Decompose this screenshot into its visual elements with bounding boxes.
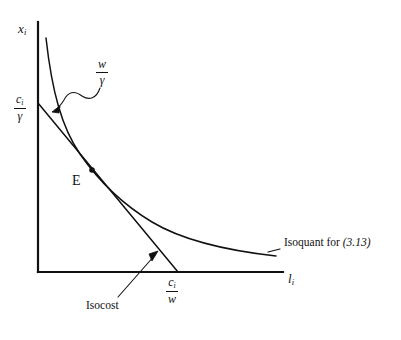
- isocost-line: [38, 103, 178, 272]
- isoquant-label: Isoquant for (3.13): [284, 237, 371, 249]
- vertical-intercept-numerator: ci: [14, 93, 26, 109]
- isocost-label: Isocost: [86, 300, 119, 312]
- isocost-leader-line: [118, 255, 155, 297]
- vertical-intercept-fraction: ci γ: [14, 93, 26, 123]
- vertical-intercept-label: ci γ: [14, 93, 26, 123]
- x-axis-label: li: [288, 272, 294, 287]
- y-axis-label-text: x: [18, 21, 24, 36]
- isoquant-label-text: Isoquant for: [284, 236, 340, 248]
- equilibrium-point-label: E: [72, 174, 81, 188]
- horizontal-intercept-fraction: ci w: [166, 276, 178, 306]
- slope-annotation-numerator: w: [96, 58, 108, 73]
- y-axis-label: xi: [18, 22, 26, 37]
- x-axis-label-subscript: i: [292, 277, 294, 287]
- slope-annotation-denominator: γ: [96, 73, 108, 87]
- slope-leader-line: [55, 88, 100, 110]
- isoquant-curve: [46, 38, 276, 256]
- diagram-svg: [0, 0, 401, 340]
- horizontal-intercept-label: ci w: [166, 276, 178, 306]
- figure-canvas: xi li ci γ ci w w γ E Isoquant for (3.13…: [0, 0, 401, 340]
- horizontal-intercept-numerator: ci: [166, 276, 178, 292]
- slope-leader-arrowhead: [52, 106, 60, 113]
- vertical-intercept-denominator: γ: [14, 109, 26, 123]
- slope-annotation-label: w γ: [96, 58, 108, 87]
- vertical-intercept-numerator-subscript: i: [21, 98, 23, 107]
- isoquant-equation-reference: (3.13): [343, 236, 371, 248]
- slope-annotation-fraction: w γ: [96, 58, 108, 86]
- y-axis-label-subscript: i: [24, 27, 26, 37]
- isoquant-leader-line: [268, 249, 280, 252]
- equilibrium-point-marker: [89, 167, 95, 173]
- horizontal-intercept-numerator-subscript: i: [174, 281, 176, 290]
- horizontal-intercept-denominator: w: [166, 292, 178, 306]
